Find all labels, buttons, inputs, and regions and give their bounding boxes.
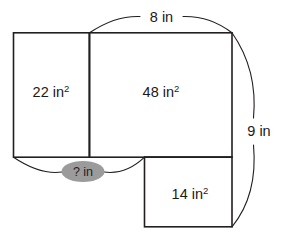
left-area-value: 22 bbox=[33, 84, 49, 100]
bottom-area-superscript: 2 bbox=[203, 185, 208, 196]
left-rectangle-area-label: 22 in2 bbox=[33, 83, 70, 100]
top-width-leader-right bbox=[183, 16, 232, 32]
right-height-leader-bottom bbox=[232, 145, 254, 227]
unknown-width-leader-left bbox=[14, 157, 63, 172]
middle-area-unit: in bbox=[163, 84, 174, 100]
composite-shape-diagram: 22 in2 48 in2 14 in2 8 in 9 in ? in bbox=[0, 0, 284, 243]
right-height-label: 9 in bbox=[247, 123, 270, 139]
bottom-right-rectangle-area-label: 14 in2 bbox=[172, 185, 209, 202]
right-height-leader-top bbox=[232, 33, 254, 118]
middle-rectangle-area-label: 48 in2 bbox=[143, 83, 180, 100]
middle-area-value: 48 bbox=[143, 84, 159, 100]
unknown-width-leader-right bbox=[104, 157, 145, 172]
middle-area-superscript: 2 bbox=[174, 83, 179, 94]
top-width-label: 8 in bbox=[150, 9, 173, 25]
bottom-area-unit: in bbox=[192, 186, 203, 202]
left-area-superscript: 2 bbox=[64, 83, 69, 94]
top-width-leader-left bbox=[90, 16, 141, 32]
unknown-width-label: ? in bbox=[73, 165, 93, 179]
geometry-figure: 22 in2 48 in2 14 in2 8 in 9 in ? in bbox=[0, 0, 284, 243]
unknown-dimension-callout[interactable]: ? in bbox=[62, 161, 105, 182]
left-area-unit: in bbox=[53, 84, 64, 100]
bottom-area-value: 14 bbox=[172, 186, 188, 202]
